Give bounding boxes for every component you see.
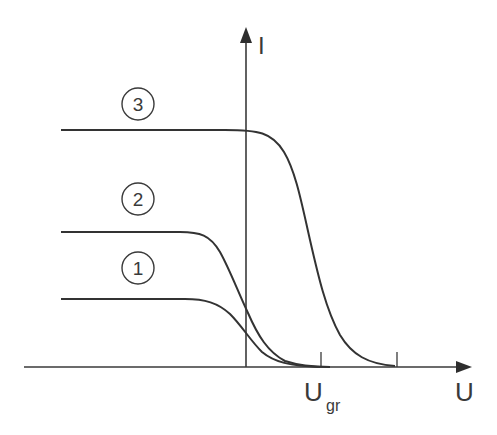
ugr-label-main: U (304, 377, 323, 407)
ugr-label-sub: gr (326, 397, 341, 414)
x-axis-arrow-icon (456, 361, 472, 373)
curve-1 (61, 299, 320, 367)
curve-3 (61, 130, 395, 366)
svg-text:3: 3 (133, 94, 144, 115)
x-axis-label: U (455, 377, 474, 407)
y-axis-arrow-icon (240, 27, 252, 43)
svg-text:1: 1 (133, 258, 144, 279)
y-axis-label: I (258, 32, 265, 59)
curve-label-2: 2 (122, 183, 154, 215)
curve-label-1: 1 (122, 252, 154, 284)
svg-text:2: 2 (133, 189, 144, 210)
x-axis (24, 361, 472, 373)
diagram-canvas: 3 2 1 I U U gr (0, 0, 497, 435)
curve-label-3: 3 (122, 88, 154, 120)
